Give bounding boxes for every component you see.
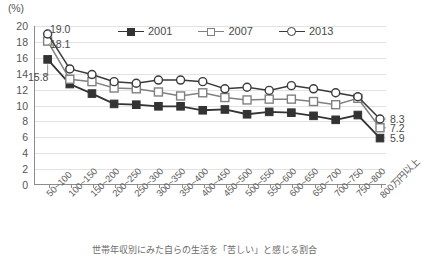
legend-label: 2007 (228, 25, 252, 37)
legend-item-2013[interactable]: 2013 (279, 25, 333, 37)
endlabel-2001: 5.9 (390, 133, 405, 144)
legend-label: 2001 (148, 25, 172, 37)
legend-marker-icon (198, 25, 224, 37)
chart-legend: 200120072013 (118, 25, 333, 37)
legend-label: 2013 (309, 25, 333, 37)
callout-2013-first: 19.0 (50, 24, 70, 35)
callout-2007-first: 18.1 (50, 39, 70, 50)
legend-marker-icon (279, 25, 305, 37)
chart-caption: 世帯年収別にみた自らの生活を「苦しい」と感じる割合 (92, 243, 317, 256)
callout-2001-first: 15.8 (28, 72, 48, 83)
legend-item-2001[interactable]: 2001 (118, 25, 172, 37)
x-axis-category-label: 800万円以上 (376, 155, 422, 201)
legend-marker-icon (118, 25, 144, 37)
legend-item-2007[interactable]: 2007 (198, 25, 252, 37)
